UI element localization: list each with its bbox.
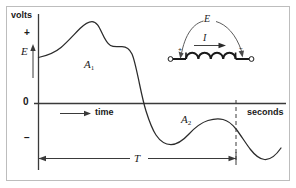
positive-area-letter: A (84, 58, 91, 70)
positive-area-subscript: 1 (91, 64, 95, 72)
inset-terminal-minus-sign: − (239, 46, 243, 53)
inductor-circuit-inset (168, 21, 254, 61)
negative-area-letter: A (181, 113, 188, 125)
current-arrow (194, 43, 226, 49)
terminal-right-icon (249, 57, 254, 62)
emf-arrow (30, 44, 35, 78)
period-label: T (134, 153, 140, 164)
emf-arc-left-segment (181, 21, 204, 56)
y-axis-unit-label: volts (11, 11, 32, 20)
emf-waveform-curve (39, 22, 282, 160)
inductor-coil-icon (186, 53, 236, 59)
y-axis-emf-label: E (21, 46, 28, 57)
x-axis-time-label: time (95, 108, 114, 117)
x-axis-seconds-label: seconds (247, 108, 284, 117)
y-axis-plus-sign: + (24, 28, 30, 38)
inset-terminal-plus-sign: + (178, 47, 182, 54)
time-arrow (60, 111, 91, 116)
inset-emf-label: E (204, 14, 210, 24)
figure-canvas (0, 0, 296, 188)
y-axis-minus-sign: − (24, 133, 30, 143)
terminal-left-icon (168, 57, 173, 62)
positive-area-label: A1 (84, 59, 94, 72)
inset-current-label: I (203, 33, 206, 43)
negative-area-subscript: 2 (188, 119, 192, 127)
waveform-figure: volts + E 0 − time seconds A1 A2 T E I +… (0, 0, 296, 188)
y-axis-zero-label: 0 (23, 97, 29, 107)
negative-area-label: A2 (181, 114, 191, 127)
